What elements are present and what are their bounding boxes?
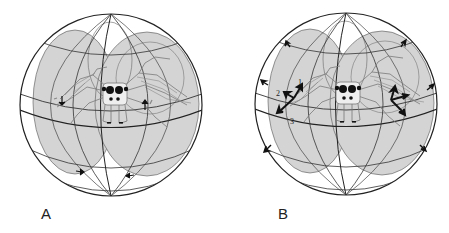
- panel-label-b: B: [278, 205, 288, 222]
- vector-label-2: 2: [276, 89, 280, 98]
- panel-label-a: A: [41, 205, 51, 222]
- sphere-panel-b: 1 2 3: [255, 13, 437, 195]
- vector-label-1: 1: [298, 78, 302, 87]
- vector-label-3: 3: [290, 117, 294, 126]
- sphere-panel-a: [20, 14, 202, 196]
- figure-canvas: 1 2 3: [0, 0, 449, 233]
